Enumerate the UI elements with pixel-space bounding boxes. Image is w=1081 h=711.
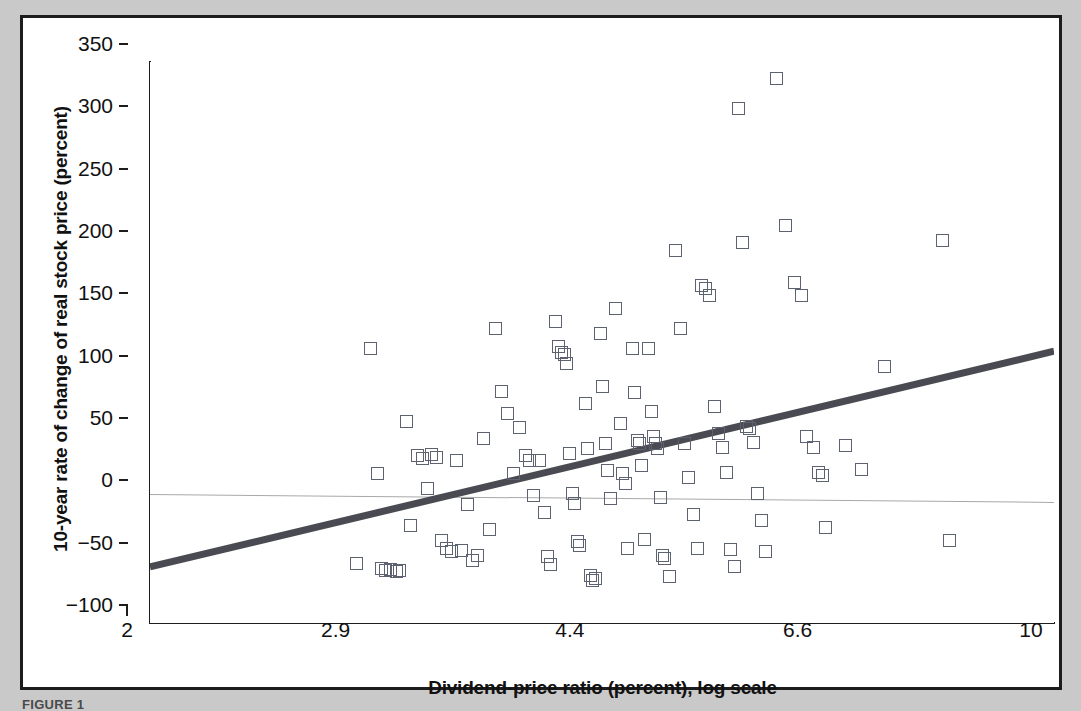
y-tick-mark xyxy=(119,355,128,357)
scatter-point xyxy=(642,342,655,355)
scatter-point xyxy=(936,234,949,247)
y-tick-mark xyxy=(119,417,128,419)
scatter-point xyxy=(747,436,760,449)
scatter-point xyxy=(560,357,573,370)
y-tick-label: −50 xyxy=(37,532,113,553)
scatter-point xyxy=(751,487,764,500)
scatter-point xyxy=(614,417,627,430)
scatter-point xyxy=(779,219,792,232)
y-tick-label: 350 xyxy=(37,33,113,54)
scatter-point xyxy=(724,543,737,556)
scatter-point xyxy=(579,397,592,410)
scatter-point xyxy=(759,545,772,558)
scatter-point xyxy=(501,407,514,420)
scatter-point xyxy=(770,72,783,85)
y-tick-label: 250 xyxy=(37,158,113,179)
scatter-point xyxy=(708,400,721,413)
y-tick-label: 100 xyxy=(37,345,113,366)
scatter-point xyxy=(816,469,829,482)
scatter-point xyxy=(404,519,417,532)
scatter-point xyxy=(651,442,664,455)
scatter-point xyxy=(626,342,639,355)
y-tick-label: 50 xyxy=(37,407,113,428)
scatter-point xyxy=(549,315,562,328)
scatter-point xyxy=(654,491,667,504)
scatter-point xyxy=(716,441,729,454)
scatter-point xyxy=(350,557,363,570)
scatter-point xyxy=(581,442,594,455)
scatter-point xyxy=(788,276,801,289)
scatter-point xyxy=(669,244,682,257)
scatter-point xyxy=(430,451,443,464)
scatter-point xyxy=(563,447,576,460)
y-tick-mark xyxy=(119,292,128,294)
scatter-point xyxy=(596,380,609,393)
scatter-point xyxy=(678,437,691,450)
scatter-point xyxy=(533,454,546,467)
scatter-point xyxy=(732,102,745,115)
y-tick-label: 300 xyxy=(37,95,113,116)
scatter-point xyxy=(393,564,406,577)
y-tick-label: 0 xyxy=(37,469,113,490)
scatter-point xyxy=(703,289,716,302)
y-tick-label: 150 xyxy=(37,282,113,303)
scatter-point xyxy=(609,302,622,315)
scatter-point xyxy=(471,549,484,562)
scatter-point xyxy=(601,464,614,477)
y-tick-label: −100 xyxy=(37,594,113,615)
scatter-point xyxy=(658,552,671,565)
y-tick-mark xyxy=(119,105,128,107)
figure-frame: 10-year rate of change of real stock pri… xyxy=(20,15,1062,690)
scatter-point xyxy=(477,432,490,445)
scatter-point xyxy=(674,322,687,335)
y-tick-mark xyxy=(119,168,128,170)
scatter-point xyxy=(943,534,956,547)
scatter-point xyxy=(513,421,526,434)
scatter-point xyxy=(687,508,700,521)
scatter-point xyxy=(628,386,641,399)
scatter-point xyxy=(638,533,651,546)
y-tick-mark xyxy=(119,542,128,544)
scatter-point xyxy=(483,523,496,536)
scatter-point xyxy=(755,514,768,527)
scatter-point xyxy=(573,539,586,552)
scatter-point xyxy=(489,322,502,335)
scatter-point xyxy=(544,558,557,571)
scatter-point xyxy=(599,437,612,450)
scatter-point xyxy=(619,477,632,490)
plot-area xyxy=(150,62,1054,623)
scatter-point xyxy=(795,289,808,302)
scatter-point xyxy=(682,471,695,484)
scatter-point xyxy=(589,572,602,585)
scatter-point xyxy=(604,492,617,505)
scatter-point xyxy=(743,422,756,435)
scatter-point xyxy=(450,454,463,467)
scatter-point xyxy=(663,570,676,583)
scatter-point xyxy=(855,463,868,476)
scatter-point xyxy=(594,327,607,340)
scatter-point xyxy=(400,415,413,428)
scatter-point xyxy=(691,542,704,555)
y-tick-mark xyxy=(119,230,128,232)
scatter-point xyxy=(728,560,741,573)
scatter-point xyxy=(712,427,725,440)
scatter-point xyxy=(819,521,832,534)
scatter-point xyxy=(495,385,508,398)
scatter-point xyxy=(527,489,540,502)
y-tick-mark xyxy=(119,43,128,45)
scatter-point xyxy=(364,342,377,355)
scatter-point xyxy=(538,506,551,519)
scatter-point xyxy=(568,497,581,510)
scatter-point xyxy=(461,498,474,511)
scatter-point xyxy=(878,360,891,373)
scatter-point xyxy=(720,466,733,479)
scatter-point xyxy=(635,459,648,472)
figure-caption: FIGURE 1 xyxy=(22,697,84,711)
y-tick-mark xyxy=(119,479,128,481)
x-axis-title: Dividend-price ratio (percent), log scal… xyxy=(150,677,1055,699)
scatter-point xyxy=(736,236,749,249)
scatter-point xyxy=(839,439,852,452)
scatter-point xyxy=(421,482,434,495)
scatter-point xyxy=(621,542,634,555)
figure-root: 10-year rate of change of real stock pri… xyxy=(0,0,1081,711)
